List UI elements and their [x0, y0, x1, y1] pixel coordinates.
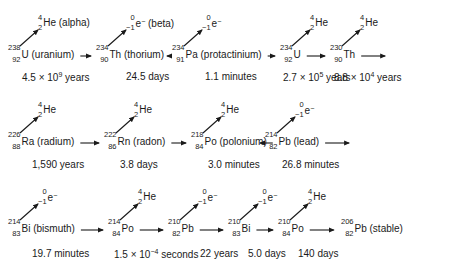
beta-emission-arrow — [180, 204, 198, 220]
alpha-emission-arrow — [20, 117, 38, 133]
alpha-emission-arrow — [120, 204, 138, 220]
beta-emission-arrow — [108, 30, 126, 46]
alpha-emission-arrow — [290, 204, 308, 220]
alpha-emission-arrow — [203, 117, 221, 133]
beta-emission-arrow — [20, 204, 38, 220]
beta-emission-arrow — [277, 117, 295, 133]
alpha-emission-arrow — [292, 30, 310, 46]
alpha-emission-arrow — [342, 30, 360, 46]
beta-emission-arrow — [240, 204, 258, 220]
alpha-emission-arrow — [20, 30, 38, 46]
beta-emission-arrow — [184, 30, 202, 46]
arrows-layer — [0, 0, 458, 278]
alpha-emission-arrow — [116, 117, 134, 133]
